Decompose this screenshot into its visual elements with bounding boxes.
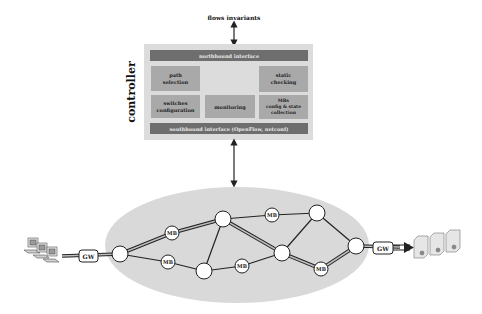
server-rack-icon	[414, 230, 460, 258]
module-label: MBs	[278, 98, 290, 103]
module-label: monitoring	[214, 104, 246, 111]
northbound-label: northbound interface	[199, 53, 259, 59]
mb-label: MB	[267, 212, 277, 218]
switch-node	[196, 263, 212, 279]
mb-label: MB	[167, 230, 177, 236]
sdn-architecture-diagram: flows invariants controller northbound i…	[0, 0, 482, 314]
switch-node	[348, 238, 364, 254]
middlebox-node: MB	[265, 208, 279, 222]
middlebox-node: MB	[235, 259, 249, 273]
module-label: configuration	[157, 107, 195, 114]
mb-label: MB	[316, 266, 326, 272]
switch-node	[309, 205, 325, 221]
gw-label: GW	[83, 253, 95, 260]
module-label: selection	[163, 79, 189, 85]
gateway-right: GW	[373, 242, 393, 254]
switch-node	[112, 246, 128, 262]
middlebox-node: MB	[165, 226, 179, 240]
module-label: collection	[271, 110, 297, 115]
gateway-left: GW	[79, 250, 98, 262]
middlebox-node: MB	[161, 255, 175, 269]
module-label: switches	[163, 100, 187, 106]
egress-arrow-icon	[404, 242, 414, 253]
middlebox-node: MB	[314, 262, 328, 276]
switch-node	[215, 211, 231, 227]
mb-label: MB	[237, 263, 247, 269]
module-label: checking	[271, 79, 297, 86]
controller-label: controller	[125, 61, 138, 123]
mb-label: MB	[163, 259, 173, 265]
module-label: path	[169, 72, 182, 79]
southbound-label: southbound interface (OpenFlow, netconf)	[170, 126, 289, 133]
switch-node	[274, 245, 290, 261]
flows-invariants-label: flows invariants	[208, 14, 261, 21]
module-label: static	[276, 72, 292, 78]
gw-label: GW	[377, 245, 389, 252]
client-computers-icon	[24, 238, 59, 262]
module-label: config & state	[266, 104, 301, 109]
